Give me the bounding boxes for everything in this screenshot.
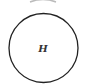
node-h: H xyxy=(9,14,78,83)
diagram-svg: H xyxy=(0,0,86,84)
diagram-canvas: H xyxy=(0,0,86,84)
partial-node-arc xyxy=(30,0,56,2)
node-label: H xyxy=(37,43,48,54)
